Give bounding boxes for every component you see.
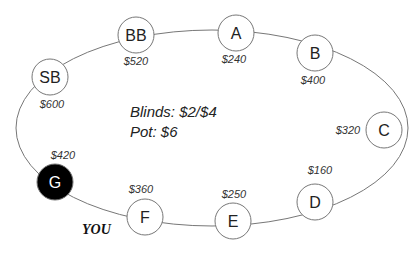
- seat-f: F$360: [127, 183, 163, 235]
- seat-label: A: [231, 25, 242, 42]
- blinds-label: Blinds: $2/$4: [130, 103, 217, 120]
- you-label: YOU: [82, 222, 112, 237]
- seat-d: D$160: [297, 164, 333, 220]
- seat-g: G$420: [37, 149, 76, 200]
- seats-layer: SB$600BB$520A$240B$400C$320D$160E$250F$3…: [32, 15, 402, 239]
- seat-a: A$240: [218, 15, 254, 65]
- seat-stack: $240: [221, 53, 247, 65]
- seat-b: B$400: [297, 35, 333, 86]
- seat-stack: $420: [50, 149, 76, 161]
- seat-e: E$250: [215, 188, 251, 239]
- seat-label: G: [49, 174, 61, 191]
- seat-label: C: [378, 122, 390, 139]
- seat-stack: $400: [300, 74, 326, 86]
- pot-label: Pot: $6: [130, 123, 178, 140]
- poker-table-diagram: SB$600BB$520A$240B$400C$320D$160E$250F$3…: [0, 0, 417, 253]
- seat-stack: $250: [221, 188, 247, 200]
- seat-stack: $360: [128, 183, 154, 195]
- seat-label: SB: [39, 69, 60, 86]
- seat-stack: $320: [335, 124, 361, 136]
- seat-label: F: [140, 209, 150, 226]
- seat-label: E: [228, 213, 239, 230]
- seat-stack: $160: [307, 164, 333, 176]
- seat-bb: BB$520: [118, 17, 154, 67]
- seat-label: D: [309, 194, 321, 211]
- seat-stack: $520: [123, 55, 149, 67]
- seat-stack: $600: [39, 98, 65, 110]
- seat-label: B: [310, 45, 321, 62]
- seat-c: C$320: [335, 112, 402, 148]
- seat-label: BB: [125, 27, 146, 44]
- seat-sb: SB$600: [32, 59, 68, 110]
